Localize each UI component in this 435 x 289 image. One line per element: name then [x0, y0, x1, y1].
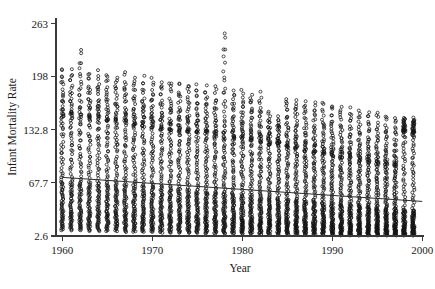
y-tick-label: 67.7 [29, 177, 49, 189]
x-tick-label: 1970 [141, 244, 164, 256]
x-tick-label: 1960 [51, 244, 74, 256]
x-axis-title: Year [229, 262, 250, 274]
x-tick-label: 1990 [321, 244, 344, 256]
x-tick-label: 2000 [411, 244, 434, 256]
y-tick-label: 198 [32, 70, 49, 82]
x-tick-label: 1980 [231, 244, 254, 256]
scatter-plot: 2.667.7132.819826319601970198019902000Ye… [0, 0, 435, 289]
y-tick-label: 2.6 [34, 230, 48, 242]
data-markers [60, 32, 416, 237]
y-axis-title: Infant Mortality Rate [6, 78, 19, 176]
y-tick-label: 263 [32, 18, 49, 30]
chart-figure: 2.667.7132.819826319601970198019902000Ye… [0, 0, 435, 289]
y-tick-label: 132.8 [23, 124, 48, 136]
